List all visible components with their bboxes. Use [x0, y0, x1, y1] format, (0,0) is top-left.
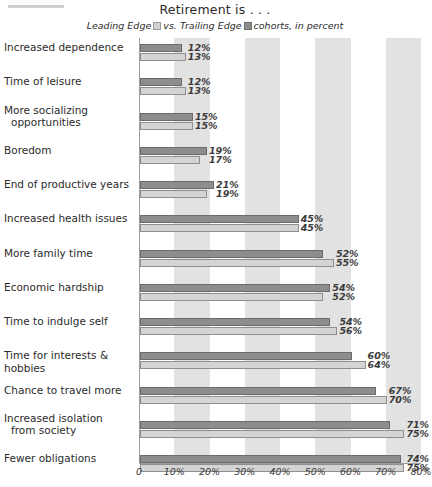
category-label: End of productive years: [4, 178, 136, 191]
category-label-line: opportunities: [4, 116, 136, 129]
category-label-line: from society: [4, 424, 136, 437]
x-tick-label: 50%: [305, 466, 326, 477]
bar-leading-edge: [140, 190, 207, 198]
bar-trailing-edge: [140, 113, 193, 121]
x-tick-label: 40%: [269, 466, 290, 477]
category-label: Fewer obligations: [4, 452, 136, 465]
legend-label-units: cohorts, in percent: [254, 20, 344, 31]
bar-trailing-edge: [140, 284, 330, 292]
x-tick-label: 0: [136, 466, 142, 477]
bar-leading-edge: [140, 430, 404, 438]
category-label: Increased isolationfrom society: [4, 412, 136, 437]
bar-trailing-edge: [140, 78, 182, 86]
bar-leading-edge: [140, 327, 337, 335]
category-label-line: Increased dependence: [4, 41, 123, 53]
bar-leading-edge: [140, 87, 186, 95]
bar-trailing-edge: [140, 147, 207, 155]
bar-trailing-edge: [140, 352, 352, 360]
category-label-line: Time to indulge self: [4, 315, 108, 327]
bar-trailing-edge: [140, 387, 376, 395]
bar-leading-edge: [140, 224, 299, 232]
bar-leading-edge: [140, 53, 186, 61]
x-tick-label: 80%: [410, 466, 431, 477]
value-label-leading-edge: 55%: [336, 257, 359, 268]
x-tick-label: 10%: [164, 466, 185, 477]
value-label-leading-edge: 15%: [195, 120, 218, 131]
category-label: More socializingopportunities: [4, 104, 136, 129]
x-tick-label: 70%: [375, 466, 396, 477]
chart-title: Retirement is . . .: [0, 2, 430, 17]
bar-trailing-edge: [140, 44, 182, 52]
x-tick-label: 20%: [199, 466, 220, 477]
legend-swatch-trailing-edge: [244, 22, 252, 30]
value-label-leading-edge: 52%: [332, 291, 355, 302]
bar-leading-edge: [140, 396, 387, 404]
bar-leading-edge: [140, 122, 193, 130]
bar-trailing-edge: [140, 250, 323, 258]
category-label: Boredom: [4, 144, 136, 157]
bar-trailing-edge: [140, 455, 401, 463]
category-label-line: Increased isolation: [4, 412, 103, 424]
category-label: Time of leisure: [4, 75, 136, 88]
category-label: More family time: [4, 247, 136, 260]
bar-leading-edge: [140, 361, 366, 369]
x-tick-label: 30%: [234, 466, 255, 477]
category-label-line: More family time: [4, 247, 93, 259]
category-label-line: Time of leisure: [4, 75, 81, 87]
bar-trailing-edge: [140, 318, 330, 326]
value-label-leading-edge: 64%: [368, 359, 391, 370]
category-label-line: Chance to travel more: [4, 384, 122, 396]
category-label-line: Fewer obligations: [4, 452, 96, 464]
x-tick-label: 60%: [340, 466, 361, 477]
category-label-line: End of productive years: [4, 178, 129, 190]
legend-label-trailing-edge: vs. Trailing Edge: [163, 20, 241, 31]
bar-trailing-edge: [140, 215, 299, 223]
value-label-leading-edge: 45%: [301, 222, 324, 233]
category-label: Chance to travel more: [4, 384, 136, 397]
category-label: Increased dependence: [4, 41, 136, 54]
category-label-line: More socializing: [4, 104, 88, 116]
category-label-line: Time for interests & hobbies: [4, 349, 108, 374]
value-label-leading-edge: 75%: [406, 428, 429, 439]
bar-leading-edge: [140, 259, 334, 267]
bar-leading-edge: [140, 293, 323, 301]
value-label-leading-edge: 13%: [188, 85, 211, 96]
category-label-line: Economic hardship: [4, 281, 104, 293]
value-label-leading-edge: 56%: [339, 325, 362, 336]
category-label: Economic hardship: [4, 281, 136, 294]
category-label-line: Boredom: [4, 144, 52, 156]
category-label: Increased health issues: [4, 212, 136, 225]
value-label-leading-edge: 13%: [188, 51, 211, 62]
bar-trailing-edge: [140, 421, 390, 429]
legend-label-leading-edge: Leading Edge: [87, 20, 152, 31]
value-label-leading-edge: 17%: [209, 154, 232, 165]
category-label-line: Increased health issues: [4, 212, 127, 224]
category-label: Time to indulge self: [4, 315, 136, 328]
category-label: Time for interests & hobbies: [4, 349, 136, 374]
bar-leading-edge: [140, 156, 200, 164]
legend-swatch-leading-edge: [153, 22, 161, 30]
chart-legend: Leading Edgevs. Trailing Edgecohorts, in…: [0, 20, 430, 31]
value-label-leading-edge: 19%: [216, 188, 239, 199]
value-label-leading-edge: 70%: [389, 394, 412, 405]
bar-trailing-edge: [140, 181, 214, 189]
